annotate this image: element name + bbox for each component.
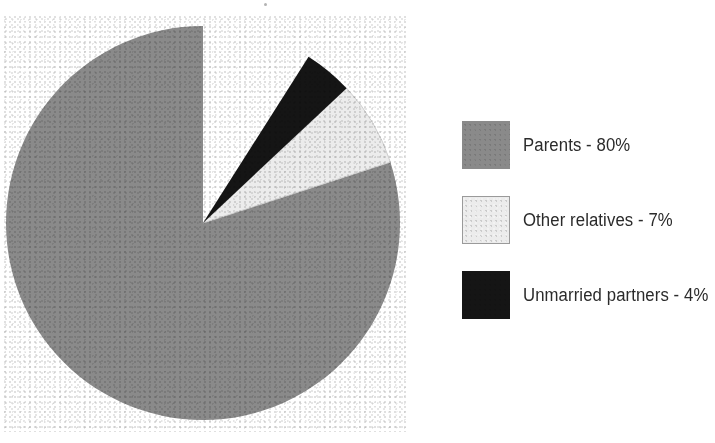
pie-slices-group	[6, 26, 400, 420]
legend-swatch-other-relatives	[462, 196, 510, 244]
legend-label-unmarried-partners: Unmarried partners - 4%	[523, 271, 708, 319]
scan-artifact-speck	[264, 3, 267, 6]
swatch-grain	[462, 121, 510, 169]
legend-label-other-relatives: Other relatives - 7%	[523, 196, 673, 244]
chart-legend: Parents - 80% Other relatives - 7% Unmar…	[462, 121, 712, 319]
pie-chart-plot-area	[3, 14, 407, 432]
legend-swatch-parents	[462, 121, 510, 169]
swatch-grain	[462, 271, 510, 319]
legend-swatch-unmarried-partners	[462, 271, 510, 319]
pie-svg	[3, 14, 407, 432]
legend-item-unmarried-partners: Unmarried partners - 4%	[462, 271, 712, 319]
swatch-grain	[463, 197, 509, 243]
legend-item-other-relatives: Other relatives - 7%	[462, 196, 712, 244]
legend-label-parents: Parents - 80%	[523, 121, 630, 169]
pie-chart-figure: Parents - 80% Other relatives - 7% Unmar…	[0, 0, 715, 443]
legend-item-parents: Parents - 80%	[462, 121, 712, 169]
